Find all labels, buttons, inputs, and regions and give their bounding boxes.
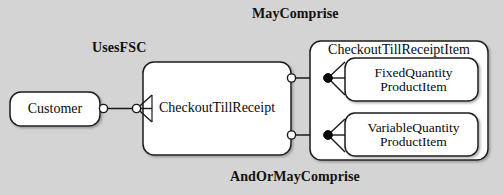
relationship-label-may-comprise: MayComprise [252, 6, 339, 22]
relationship-label-uses-fsc: UsesFSC [92, 40, 146, 56]
mandatory-marker-variable-quantity [324, 131, 333, 140]
optional-marker-customer [99, 104, 107, 112]
entity-box-checkout-till-receipt[interactable] [143, 62, 291, 155]
optional-marker-receipt-left [132, 104, 140, 112]
entity-box-fixed-quantity-product-item[interactable] [345, 58, 478, 101]
entity-box-variable-quantity-product-item[interactable] [345, 113, 478, 156]
diagram-canvas [0, 0, 503, 195]
relationship-label-and-or-may-comprise: AndOrMayComprise [230, 169, 360, 185]
optional-marker-receipt-upper-right [287, 74, 295, 82]
entity-relationship-diagram: MayComprise UsesFSC AndOrMayComprise Cus… [0, 0, 503, 195]
optional-marker-receipt-lower-right [287, 131, 295, 139]
mandatory-marker-fixed-quantity [324, 74, 333, 83]
entity-box-customer[interactable] [10, 92, 100, 126]
